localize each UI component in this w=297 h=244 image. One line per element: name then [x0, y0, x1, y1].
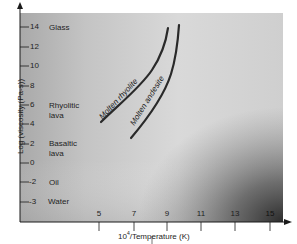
y-axis-title: Log (viscosity (Pa-s)) — [16, 67, 25, 167]
label-glass: Glass — [49, 23, 69, 32]
y-tick-label: 6 — [30, 100, 34, 109]
y-tick-label: 8 — [30, 81, 34, 90]
x-tick-label: 5 — [97, 209, 101, 218]
x-axis-title: 104/Temperature (K) — [118, 230, 190, 241]
x-tick-label: 13 — [231, 209, 240, 218]
y-tick-label: 0 — [30, 158, 34, 167]
label-water: Water — [48, 197, 69, 206]
label-basaltic-lava-2: lava — [49, 149, 64, 158]
x-axis-title-base: 10 — [118, 232, 127, 241]
x-tick-label: 7 — [132, 209, 136, 218]
y-tick-label: -3 — [29, 197, 36, 206]
x-axis-title-rest: /Temperature (K) — [130, 232, 190, 241]
y-tick-label: 14 — [30, 22, 39, 31]
label-basaltic-lava-1: Basaltic — [49, 139, 77, 148]
y-tick-label: -2 — [29, 177, 36, 186]
x-tick-label: 15 — [266, 209, 275, 218]
y-axis-arrow-icon — [17, 2, 23, 9]
y-tick-label: 2 — [30, 139, 34, 148]
label-oil: Oil — [49, 178, 59, 187]
y-tick-label: 10 — [30, 61, 39, 70]
label-rhyolitic-lava-1: Rhyolitic — [49, 101, 79, 110]
x-tick-label: 9 — [165, 209, 169, 218]
viscosity-chart — [0, 0, 297, 244]
label-rhyolitic-lava-2: lava — [49, 111, 64, 120]
x-axis-arrow-icon — [284, 219, 292, 225]
y-tick-label: 4 — [30, 119, 34, 128]
y-tick-label: 12 — [30, 42, 39, 51]
x-tick-label: 11 — [197, 209, 205, 218]
